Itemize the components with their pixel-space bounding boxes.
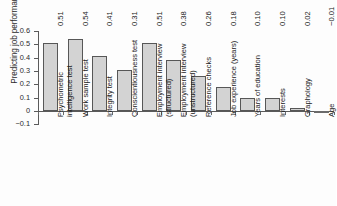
- bar-value-label: 0.10: [253, 11, 262, 26]
- category-label: Psychometricintelligence test: [57, 65, 74, 117]
- category-label: Reference checks: [205, 57, 214, 117]
- bar-value-label: 0.18: [229, 11, 238, 26]
- bar-value-label: 0.31: [130, 11, 139, 26]
- category-label: Age: [328, 104, 337, 117]
- category-label-line: Graphology: [303, 78, 312, 117]
- y-axis-tick: [34, 31, 38, 32]
- category-label-line: Psychometric: [56, 72, 65, 117]
- category-label: Graphology: [304, 78, 313, 117]
- category-label-line: Years of education: [253, 55, 262, 117]
- category-label-line: (structured): [165, 44, 174, 117]
- category-label-line: Integrity test: [105, 76, 114, 117]
- category-label: Job experience (years): [230, 41, 239, 117]
- category-label-line: Employment interview: [179, 44, 188, 117]
- bar-value-label: 0.26: [204, 11, 213, 26]
- category-label-line: Conscientiousness test: [130, 40, 139, 117]
- y-axis-tick: [34, 124, 38, 125]
- bar-value-label: −0.01: [327, 7, 336, 26]
- y-axis-tick-label: 0.2: [4, 80, 30, 87]
- y-axis-tick-label: 0.6: [4, 27, 30, 34]
- category-label: Integrity test: [106, 76, 115, 117]
- bar-value-label: 0.41: [105, 11, 114, 26]
- bar-value-label: 0.10: [278, 11, 287, 26]
- category-label-line: Reference checks: [204, 57, 213, 117]
- category-label-line: Employment interview: [155, 44, 164, 117]
- bar-value-label: 0.38: [179, 11, 188, 26]
- y-axis-tick-label: 0.5: [4, 40, 30, 47]
- y-axis-tick: [34, 98, 38, 99]
- category-label-line: Interests: [278, 88, 287, 117]
- x-axis-tick: [38, 112, 39, 115]
- y-axis-tick: [34, 58, 38, 59]
- category-label-line: (unstructured): [189, 44, 198, 117]
- y-axis-tick-label: 0: [4, 107, 30, 114]
- y-axis-tick-label: 0.4: [4, 54, 30, 61]
- category-label: Work sample test: [82, 59, 91, 117]
- category-label: Interests: [279, 88, 288, 117]
- y-axis-tick: [34, 84, 38, 85]
- category-label-line: Job experience (years): [229, 41, 238, 117]
- y-axis-tick: [34, 71, 38, 72]
- category-label-line: intelligence test: [66, 65, 75, 117]
- bar-value-label: 0.02: [303, 11, 312, 26]
- y-axis-tick-label: 0.3: [4, 67, 30, 74]
- y-axis-tick: [34, 44, 38, 45]
- category-label: Years of education: [254, 55, 263, 117]
- category-label: Conscientiousness test: [131, 40, 140, 117]
- bar-value-label: 0.51: [56, 11, 65, 26]
- y-axis-tick-label: 0.1: [4, 94, 30, 101]
- category-label-line: Age: [327, 104, 336, 117]
- category-label-line: Work sample test: [81, 59, 90, 117]
- category-label: Employment interview(unstructured): [180, 44, 197, 117]
- y-axis-tick-label: −0.1: [4, 120, 30, 127]
- bar-value-label: 0.51: [155, 11, 164, 26]
- bar-value-label: 0.54: [81, 11, 90, 26]
- category-label: Employment interview(structured): [156, 44, 173, 117]
